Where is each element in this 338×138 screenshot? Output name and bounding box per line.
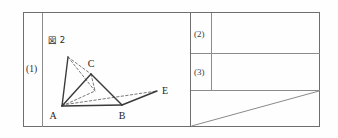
answer-sheet: (1) 図 2 A B C E (2) (3) bbox=[0, 0, 338, 138]
question-number-3: (3) bbox=[194, 67, 205, 77]
question-number-2: (2) bbox=[194, 29, 205, 39]
sheet-canvas: (1) 図 2 A B C E (2) (3) bbox=[0, 0, 338, 138]
answer-field-3[interactable] bbox=[212, 54, 319, 90]
question-number-1: (1) bbox=[26, 64, 37, 75]
answer-field-1[interactable] bbox=[43, 13, 190, 126]
working-area-field[interactable] bbox=[191, 91, 319, 126]
answer-field-2[interactable] bbox=[212, 13, 319, 53]
